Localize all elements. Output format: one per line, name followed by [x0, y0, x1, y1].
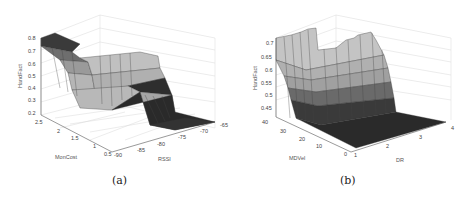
- z-ticks-b: 0.7 0.65 0.6 0.55 0.5 0.45: [261, 40, 274, 111]
- svg-text:0.65: 0.65: [261, 54, 272, 60]
- svg-text:-80: -80: [157, 141, 165, 147]
- xlabel-b: DR: [396, 157, 404, 163]
- svg-text:3: 3: [419, 134, 422, 140]
- svg-text:1: 1: [93, 143, 96, 149]
- svg-text:10: 10: [316, 143, 322, 149]
- svg-text:0.7: 0.7: [28, 48, 36, 54]
- svg-text:1: 1: [354, 152, 357, 158]
- z-ticks-a: 0.8 0.7 0.6 0.5 0.4 0.3 0.2: [28, 35, 36, 116]
- svg-text:30: 30: [280, 128, 286, 134]
- svg-text:2: 2: [57, 128, 60, 134]
- ylabel-a: MonCost: [55, 154, 77, 160]
- svg-text:2.5: 2.5: [35, 119, 43, 125]
- svg-text:0.5: 0.5: [265, 92, 273, 98]
- xlabel-a: RSSI: [158, 156, 171, 162]
- svg-text:2: 2: [386, 143, 389, 149]
- svg-text:-65: -65: [220, 122, 228, 128]
- svg-text:0.6: 0.6: [28, 61, 36, 67]
- caption-a: (a): [112, 174, 127, 187]
- svg-text:0.45: 0.45: [261, 105, 272, 111]
- svg-text:0.4: 0.4: [28, 85, 36, 91]
- svg-text:-85: -85: [137, 147, 145, 153]
- svg-text:0.8: 0.8: [28, 35, 36, 41]
- svg-text:-75: -75: [178, 134, 186, 140]
- panel-a: 0.8 0.7 0.6 0.5 0.4 0.3 0.2 HandFact 2.5…: [0, 0, 236, 198]
- svg-text:0.7: 0.7: [266, 40, 274, 46]
- svg-text:-90: -90: [114, 152, 122, 158]
- svg-text:40: 40: [262, 119, 268, 125]
- svg-text:-70: -70: [200, 128, 208, 134]
- svg-text:0: 0: [344, 151, 347, 157]
- svg-text:20: 20: [299, 136, 305, 142]
- svg-text:0.55: 0.55: [261, 80, 272, 86]
- svg-text:0.5: 0.5: [104, 151, 112, 157]
- surface-plot-b: 0.7 0.65 0.6 0.55 0.5 0.45 HandFact 40 3…: [236, 0, 473, 198]
- zlabel-a: HandFact: [17, 64, 23, 88]
- caption-b: (b): [340, 174, 356, 187]
- svg-text:4: 4: [451, 125, 454, 131]
- zlabel-b: HandFact: [252, 66, 258, 90]
- svg-text:0.2: 0.2: [28, 110, 36, 116]
- svg-text:1.5: 1.5: [71, 135, 79, 141]
- svg-text:0.3: 0.3: [28, 97, 36, 103]
- panel-b: 0.7 0.65 0.6 0.55 0.5 0.45 HandFact 40 3…: [236, 0, 473, 198]
- surface-plot-a: 0.8 0.7 0.6 0.5 0.4 0.3 0.2 HandFact 2.5…: [0, 0, 236, 198]
- ylabel-b: MDVel: [289, 155, 305, 161]
- svg-text:0.6: 0.6: [265, 67, 273, 73]
- svg-text:0.5: 0.5: [28, 73, 36, 79]
